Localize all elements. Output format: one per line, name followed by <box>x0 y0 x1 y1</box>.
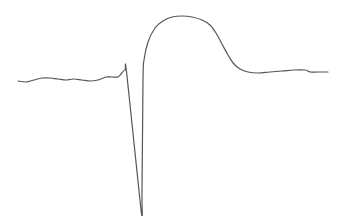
waveform-trace <box>18 16 328 216</box>
waveform-line <box>0 0 338 216</box>
waveform-plot <box>0 0 338 216</box>
